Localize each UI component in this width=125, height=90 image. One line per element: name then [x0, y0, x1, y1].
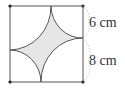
geometry-figure: 6 cm 8 cm [0, 0, 125, 90]
corner-dot-bottom-left [8, 80, 11, 83]
label-6cm: 6 cm [89, 15, 117, 30]
label-8cm: 8 cm [89, 53, 117, 68]
shaded-region [10, 6, 83, 82]
corner-dot-top-left [8, 4, 11, 7]
